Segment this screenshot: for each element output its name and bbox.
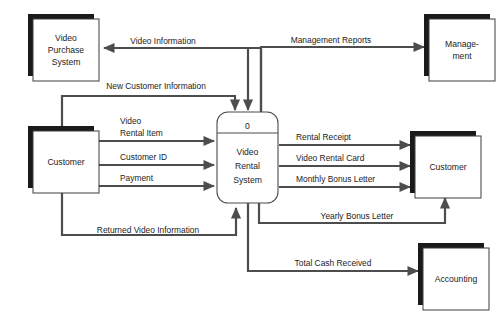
flow-label-total-cash-received: Total Cash Received [295,258,372,268]
process-video-rental-system[interactable]: 0 Video Rental System [217,112,278,203]
flow-label-returned-video-information: Returned Video Information [97,225,200,235]
entity-management[interactable]: Manage- ment [424,14,495,81]
flow-rental-receipt: Rental Receipt [279,132,410,145]
entity-customer-left[interactable]: Customer [28,126,99,193]
flow-customer-id: Customer ID [99,152,214,165]
dfd-canvas: Video Information Management Reports New… [0,0,503,318]
flow-payment: Payment [99,173,214,186]
entity-label-accounting: Accounting [435,274,478,284]
flow-management-reports: Management Reports [261,35,424,112]
entity-label-management-line2: ment [452,51,472,61]
flow-yearly-bonus-letter: Yearly Bonus Letter [259,198,445,223]
flow-label-new-customer-information: New Customer Information [106,81,206,91]
data-flow-diagram: Video Information Management Reports New… [0,0,503,318]
flow-label-monthly-bonus-letter: Monthly Bonus Letter [296,174,375,184]
process-label-line3: System [233,175,262,185]
entity-label-customer-right: Customer [429,162,466,172]
flow-label-video-information: Video Information [130,36,196,46]
entity-label-video-purchase-system-line1: Video [55,33,77,43]
flow-monthly-bonus-letter: Monthly Bonus Letter [279,174,410,187]
process-number: 0 [245,121,250,131]
flow-label-customer-id: Customer ID [120,152,167,162]
entity-accounting[interactable]: Accounting [418,243,489,310]
process-label-line2: Rental [235,161,260,171]
flow-label-video-rental-item-line1: Video [120,116,142,126]
flow-label-video-rental-card: Video Rental Card [296,153,365,163]
entity-label-video-purchase-system-line2: Purchase [48,45,85,55]
flow-label-rental-receipt: Rental Receipt [296,132,352,142]
flow-label-video-rental-item-line2: Rental Item [120,128,163,138]
flow-video-rental-item: Video Rental Item [99,116,214,141]
flow-new-customer-information: New Customer Information [62,81,235,131]
flow-label-management-reports: Management Reports [291,35,372,45]
entity-video-purchase-system[interactable]: Video Purchase System [28,14,99,81]
flow-video-information: Video Information [104,36,261,112]
flow-label-yearly-bonus-letter: Yearly Bonus Letter [321,211,394,221]
flow-returned-video-information: Returned Video Information [62,193,236,235]
entity-label-customer-left: Customer [47,157,84,167]
flow-label-payment: Payment [120,173,154,183]
entity-label-video-purchase-system-line3: System [52,57,81,67]
entity-customer-right[interactable]: Customer [410,131,481,198]
process-label-line1: Video [237,147,259,157]
entity-label-management-line1: Manage- [445,39,479,49]
flow-video-rental-card: Video Rental Card [279,153,410,166]
